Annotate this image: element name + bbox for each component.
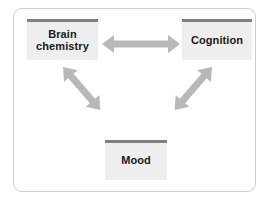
node-label: Cognition <box>188 34 246 46</box>
arrow-cognition-mood <box>168 61 219 116</box>
node-accent-bar <box>105 140 167 143</box>
node-label: Mood <box>118 154 154 166</box>
arrow-brain-cognition <box>102 35 180 53</box>
node-accent-bar <box>182 19 252 22</box>
node-label: Brain chemistry <box>33 28 92 52</box>
node-accent-bar <box>27 19 98 22</box>
node-cognition[interactable]: Cognition <box>182 19 252 60</box>
node-brain-chemistry[interactable]: Brain chemistry <box>27 19 98 60</box>
diagram-canvas: Brain chemistry Cognition Mood <box>0 0 274 208</box>
node-mood[interactable]: Mood <box>105 140 167 180</box>
arrow-brain-mood <box>56 61 107 116</box>
